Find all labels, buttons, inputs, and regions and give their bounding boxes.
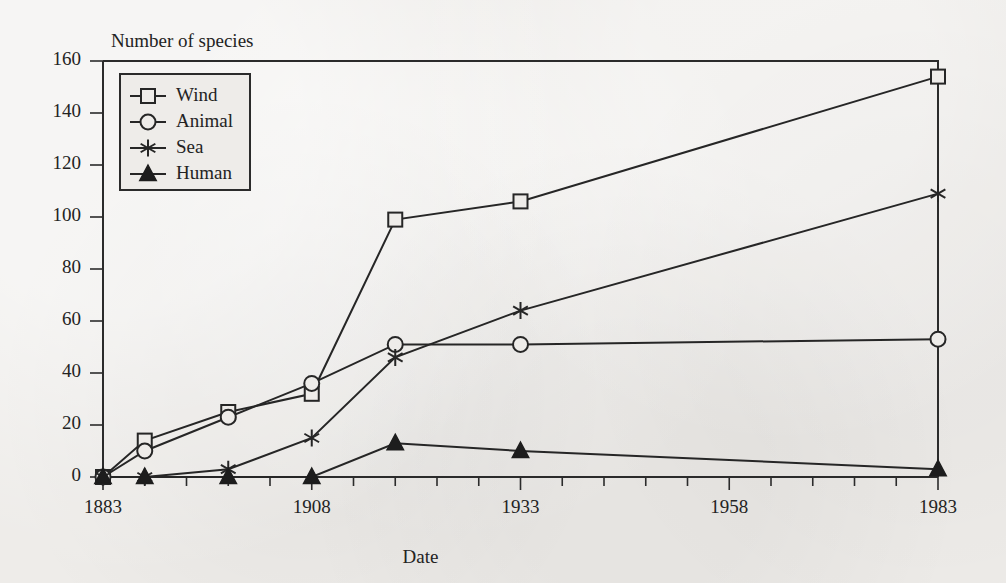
y-tick-label: 20 [62, 412, 81, 433]
data-point-wind [388, 213, 402, 227]
x-tick-label: 1933 [502, 496, 540, 517]
data-point-wind [931, 70, 945, 84]
x-tick-label: 1883 [84, 496, 122, 517]
data-point-wind [514, 194, 528, 208]
species-line-chart: 0204060801001201401601883190819331958198… [0, 0, 1006, 583]
series-line-sea [103, 194, 938, 477]
y-axis-title: Number of species [111, 30, 253, 51]
y-tick-label: 140 [53, 100, 82, 121]
legend-label-wind: Wind [176, 84, 218, 105]
chart-page: 0204060801001201401601883190819331958198… [0, 0, 1006, 583]
x-tick-label: 1908 [293, 496, 331, 517]
y-tick-label: 100 [53, 204, 82, 225]
data-point-sea [513, 302, 528, 319]
y-tick-label: 120 [53, 152, 82, 173]
legend-marker-animal [141, 115, 156, 130]
data-point-animal [221, 410, 236, 425]
y-tick-label: 160 [53, 48, 82, 69]
data-point-animal [304, 376, 319, 391]
data-point-human [303, 468, 320, 483]
x-axis-title: Date [403, 546, 439, 567]
data-point-human [387, 434, 404, 449]
data-point-human [930, 460, 947, 475]
legend-label-human: Human [176, 162, 232, 183]
y-tick-label: 40 [62, 360, 81, 381]
data-point-animal [137, 444, 152, 459]
legend-marker-wind [141, 89, 155, 103]
y-tick-label: 60 [62, 308, 81, 329]
legend-label-animal: Animal [176, 110, 233, 131]
y-tick-label: 80 [62, 256, 81, 277]
data-point-animal [513, 337, 528, 352]
x-tick-label: 1958 [710, 496, 748, 517]
x-tick-label: 1983 [919, 496, 957, 517]
data-point-animal [931, 332, 946, 347]
y-tick-label: 0 [72, 464, 82, 485]
legend-label-sea: Sea [176, 136, 204, 157]
data-point-sea [931, 185, 946, 202]
